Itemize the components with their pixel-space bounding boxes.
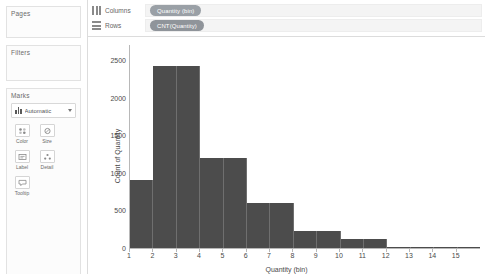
bar-chart-icon — [15, 107, 22, 114]
histogram-bar[interactable] — [411, 247, 434, 248]
x-axis-tick: 13 — [405, 252, 413, 259]
marks-type-label: Automatic — [25, 108, 66, 114]
x-axis-ticks: 123456789101112131415 — [129, 249, 479, 263]
marks-detail-label: Detail — [41, 164, 54, 170]
histogram-chart: Count of Quantity 05001000150020002500 1… — [88, 37, 485, 274]
filters-shelf-dropzone[interactable] — [7, 58, 80, 74]
marks-label-label: Label — [16, 164, 28, 170]
pages-shelf-dropzone[interactable] — [7, 19, 80, 35]
filters-card-title: Filters — [7, 46, 80, 58]
columns-shelf-label: Columns — [105, 7, 141, 14]
plot-area — [129, 45, 480, 249]
x-axis-tick: 11 — [359, 252, 366, 259]
pill-quantity-bin[interactable]: Quantity (bin) — [150, 5, 201, 16]
histogram-bar[interactable] — [434, 247, 457, 248]
histogram-bar[interactable] — [153, 66, 176, 248]
visualization-canvas[interactable]: Count of Quantity 05001000150020002500 1… — [88, 37, 485, 274]
columns-icon — [92, 6, 101, 15]
x-axis-tick: 3 — [174, 252, 178, 259]
x-axis-tick: 7 — [267, 252, 271, 259]
marks-label-button[interactable]: Label — [10, 148, 34, 173]
marks-color-button[interactable]: Color — [10, 122, 34, 147]
y-axis-tick: 1000 — [110, 169, 126, 176]
x-axis-tick: 6 — [244, 252, 248, 259]
x-axis-tick: 5 — [220, 252, 224, 259]
histogram-bar[interactable] — [224, 158, 247, 248]
x-axis-tick: 8 — [290, 252, 294, 259]
histogram-bar[interactable] — [130, 180, 153, 248]
filters-card[interactable]: Filters — [6, 45, 81, 81]
x-axis-tick: 14 — [428, 252, 436, 259]
pages-card-title: Pages — [7, 7, 80, 19]
columns-shelf[interactable]: Columns Quantity (bin) — [88, 3, 485, 18]
rows-shelf-dropzone[interactable]: CNT(Quantity) — [145, 19, 482, 32]
x-axis-tick: 9 — [314, 252, 318, 259]
marks-detail-button[interactable]: Detail — [35, 148, 59, 173]
label-icon — [15, 150, 30, 163]
x-axis-tick: 10 — [335, 252, 343, 259]
marks-buttons: Color Size — [7, 122, 80, 199]
marks-size-label: Size — [42, 138, 52, 144]
histogram-bar[interactable] — [458, 247, 480, 248]
detail-icon — [40, 150, 55, 163]
marks-size-button[interactable]: Size — [35, 122, 59, 147]
marks-tooltip-label: Tooltip — [15, 190, 29, 196]
y-axis-tick: 500 — [114, 207, 126, 214]
histogram-bar[interactable] — [177, 66, 200, 248]
histogram-bar[interactable] — [317, 231, 340, 248]
marks-card: Marks Automatic Color — [6, 88, 81, 274]
tableau-worksheet: Pages Filters Marks Automatic — [0, 0, 485, 274]
size-icon — [40, 124, 55, 137]
rows-shelf[interactable]: Rows CNT(Quantity) — [88, 18, 485, 33]
tooltip-icon — [15, 176, 30, 189]
bar-series — [130, 45, 480, 248]
marks-card-title: Marks — [7, 89, 80, 101]
rows-shelf-label: Rows — [105, 22, 141, 29]
histogram-bar[interactable] — [341, 239, 364, 248]
y-axis-tick: 2500 — [110, 57, 126, 64]
marks-tooltip-button[interactable]: Tooltip — [10, 174, 34, 199]
marks-sidebar: Pages Filters Marks Automatic — [0, 0, 88, 274]
marks-type-dropdown[interactable]: Automatic — [11, 103, 76, 118]
histogram-bar[interactable] — [294, 231, 317, 248]
y-axis-tick: 0 — [122, 245, 126, 252]
x-axis-title: Quantity (bin) — [88, 266, 485, 273]
histogram-bar[interactable] — [364, 239, 387, 248]
columns-shelf-dropzone[interactable]: Quantity (bin) — [145, 4, 482, 17]
rows-icon — [92, 21, 101, 30]
x-axis-tick: 12 — [382, 252, 390, 259]
histogram-bar[interactable] — [200, 158, 223, 248]
x-axis-tick: 15 — [452, 252, 460, 259]
marks-color-label: Color — [16, 138, 28, 144]
pill-cnt-quantity[interactable]: CNT(Quantity) — [150, 20, 204, 31]
x-axis-tick: 4 — [197, 252, 201, 259]
y-axis-tick: 1500 — [110, 132, 126, 139]
color-icon — [15, 124, 30, 137]
y-axis-ticks: 05001000150020002500 — [100, 45, 126, 248]
pages-card[interactable]: Pages — [6, 6, 81, 38]
histogram-bar[interactable] — [270, 203, 293, 248]
histogram-bar[interactable] — [247, 203, 270, 248]
x-axis-tick: 2 — [150, 252, 154, 259]
chevron-down-icon[interactable] — [68, 109, 72, 112]
worksheet-main: Columns Quantity (bin) Rows CNT(Quantity… — [88, 0, 485, 274]
histogram-bar[interactable] — [387, 247, 410, 248]
y-axis-tick: 2000 — [110, 94, 126, 101]
x-axis-tick: 1 — [127, 252, 131, 259]
shelves-area: Columns Quantity (bin) Rows CNT(Quantity… — [88, 0, 485, 37]
